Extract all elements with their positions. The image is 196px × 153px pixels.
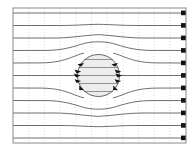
outlet-arrow-11: [181, 136, 186, 141]
outlet-arrow-2: [181, 23, 186, 28]
field-line-figure: [0, 0, 196, 153]
outlet-arrow-1: [181, 11, 186, 16]
outlet-arrow-9: [181, 111, 186, 116]
outlet-arrow-8: [181, 98, 186, 103]
outlet-arrow-10: [181, 123, 186, 128]
outlet-arrow-7: [181, 86, 186, 91]
plot-canvas: [0, 0, 196, 153]
outlet-arrow-6: [181, 73, 186, 78]
outlet-arrow-4: [181, 48, 186, 53]
outlet-arrow-3: [181, 36, 186, 41]
outlet-arrow-5: [181, 61, 186, 66]
